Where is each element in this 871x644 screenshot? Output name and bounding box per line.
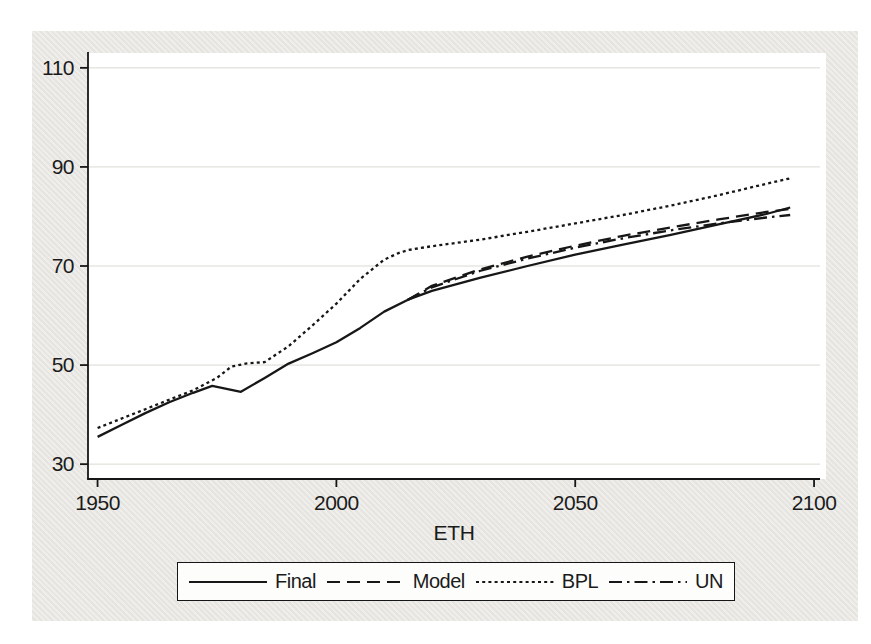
chart-svg: 305070901101950200020502100 — [0, 0, 871, 644]
bpl-line-sample-icon — [476, 579, 554, 585]
page: 305070901101950200020502100 ETH Final Mo… — [0, 0, 871, 644]
un-line-sample-icon — [609, 579, 687, 585]
y-tick-label-50: 50 — [52, 353, 74, 376]
legend: Final Model BPL UN — [177, 562, 735, 601]
y-tick-label-90: 90 — [52, 155, 74, 178]
y-tick-label-110: 110 — [42, 56, 74, 79]
final-line-sample-icon — [189, 579, 267, 585]
x-tick-label-2050: 2050 — [553, 491, 598, 514]
x-tick-label-1950: 1950 — [75, 491, 120, 514]
series-line-un — [408, 215, 790, 300]
legend-entry-bpl: BPL — [476, 570, 598, 593]
legend-entry-final: Final — [189, 570, 316, 593]
legend-entry-model: Model — [327, 570, 465, 593]
x-tick-label-2100: 2100 — [792, 491, 837, 514]
legend-label-final: Final — [275, 570, 316, 593]
legend-label-un: UN — [695, 570, 723, 593]
y-tick-label-30: 30 — [52, 452, 74, 475]
model-line-sample-icon — [327, 579, 405, 585]
legend-entry-un: UN — [609, 570, 723, 593]
series-line-final — [98, 208, 791, 437]
y-tick-label-70: 70 — [52, 254, 74, 277]
x-tick-label-2000: 2000 — [314, 491, 359, 514]
x-axis-title: ETH — [88, 521, 820, 545]
legend-label-model: Model — [413, 570, 465, 593]
legend-label-bpl: BPL — [562, 570, 598, 593]
